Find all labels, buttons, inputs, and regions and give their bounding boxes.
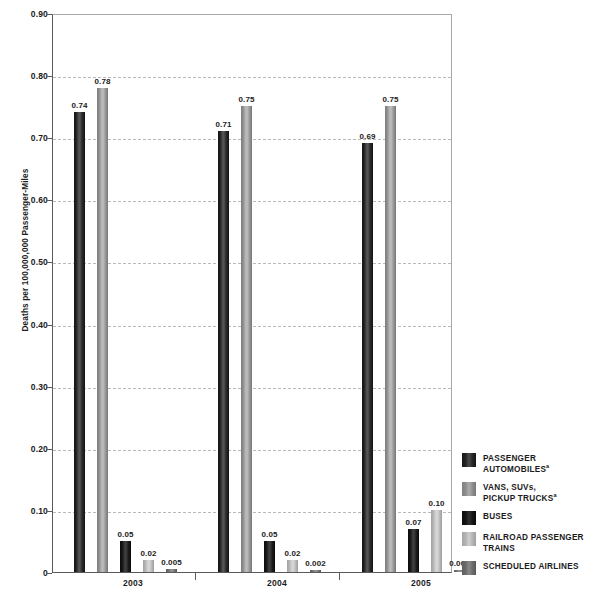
x-axis-category-label-2003: 2003	[88, 578, 178, 588]
bar: 0.07	[408, 529, 419, 572]
bar: 0.005	[166, 569, 177, 572]
bar: 0.75	[241, 106, 252, 572]
bar-fill	[143, 560, 154, 572]
bar-fill	[120, 541, 131, 572]
legend-swatch-icon	[462, 532, 476, 546]
bar-value-label: 0.10	[429, 499, 445, 508]
y-axis-tick-label: 0	[0, 568, 48, 578]
bar-fill	[362, 143, 373, 572]
bar: 0.02	[143, 560, 154, 572]
bar-value-label: 0.69	[360, 132, 376, 141]
bar-fill	[287, 560, 298, 572]
y-axis-tick-label: 0.60	[0, 195, 48, 205]
y-axis-tick-label: 0.30	[0, 382, 48, 392]
bar: 0.05	[120, 541, 131, 572]
y-axis-tick-label: 0.20	[0, 444, 48, 454]
chart-root: Deaths per 100,000,000 Passenger-Miles 0…	[0, 0, 598, 599]
legend-item-label: PASSENGERAUTOMOBILESa	[483, 453, 549, 475]
legend-item-railroad-passenger-trains[interactable]: RAILROAD PASSENGERTRAINS	[462, 532, 598, 554]
bar-value-label: 0.002	[305, 559, 326, 568]
bar-value-label: 0.05	[262, 530, 278, 539]
x-axis-category-label-2005: 2005	[376, 578, 466, 588]
x-axis-tick-mark	[339, 573, 340, 580]
y-axis-tick-label: 0.50	[0, 257, 48, 267]
legend-item-passenger-automobiles[interactable]: PASSENGERAUTOMOBILESa	[462, 453, 598, 475]
bar-fill	[74, 112, 85, 572]
bar: 0.02	[287, 560, 298, 572]
bar-fill	[264, 541, 275, 572]
y-axis-tick-label: 0.40	[0, 320, 48, 330]
bar-value-label: 0.02	[141, 549, 157, 558]
legend-swatch-icon	[462, 511, 476, 525]
y-axis-tick-mark	[46, 573, 52, 574]
legend-item-label: RAILROAD PASSENGERTRAINS	[483, 532, 584, 554]
bar: 0.002	[310, 570, 321, 572]
bar-fill	[166, 569, 177, 572]
bar-fill	[241, 106, 252, 572]
y-axis-tick-label: 0.70	[0, 133, 48, 143]
legend-item-label: VANS, SUVs,PICKUP TRUCKSa	[483, 482, 557, 504]
legend-item-label: SCHEDULED AIRLINES	[483, 561, 579, 573]
legend-item-buses[interactable]: BUSES	[462, 511, 598, 525]
bar: 0.74	[74, 112, 85, 572]
plot-area: 0.740.780.050.020.0050.710.750.050.020.0…	[52, 14, 452, 573]
y-axis-tick-label: 0.10	[0, 506, 48, 516]
bar-group-2004: 0.710.750.050.020.002	[202, 15, 346, 572]
bar-fill	[218, 131, 229, 572]
legend-swatch-icon	[462, 482, 476, 496]
bar: 0.75	[385, 106, 396, 572]
legend-item-scheduled-airlines[interactable]: SCHEDULED AIRLINES	[462, 561, 598, 575]
bar-fill	[97, 88, 108, 572]
bar-value-label: 0.78	[95, 77, 111, 86]
chart-legend: PASSENGERAUTOMOBILESaVANS, SUVs,PICKUP T…	[462, 453, 598, 582]
bar-value-label: 0.05	[118, 530, 134, 539]
legend-item-label: BUSES	[483, 511, 512, 523]
y-axis-tick-label: 0.80	[0, 71, 48, 81]
bar-fill	[431, 510, 442, 572]
bar-fill	[385, 106, 396, 572]
bar-value-label: 0.71	[216, 120, 232, 129]
x-axis-tick-mark	[195, 573, 196, 580]
legend-item-vans-suvs-pickup-trucks[interactable]: VANS, SUVs,PICKUP TRUCKSa	[462, 482, 598, 504]
bar: 0.78	[97, 88, 108, 572]
bar: 0.71	[218, 131, 229, 572]
bar-fill	[310, 570, 321, 572]
bar-value-label: 0.74	[72, 101, 88, 110]
y-axis-tick-label: 0.90	[0, 9, 48, 19]
bar: 0.10	[431, 510, 442, 572]
bar: 0.05	[264, 541, 275, 572]
bar-value-label: 0.75	[383, 95, 399, 104]
bar-value-label: 0.07	[406, 518, 422, 527]
bar-fill	[408, 529, 419, 572]
bar: 0.69	[362, 143, 373, 572]
bar-value-label: 0.75	[239, 95, 255, 104]
bar-group-2003: 0.740.780.050.020.005	[58, 15, 202, 572]
legend-swatch-icon	[462, 453, 476, 467]
x-axis-category-label-2004: 2004	[232, 578, 322, 588]
bar-value-label: 0.02	[285, 549, 301, 558]
legend-swatch-icon	[462, 561, 476, 575]
bar-value-label: 0.005	[161, 558, 182, 567]
